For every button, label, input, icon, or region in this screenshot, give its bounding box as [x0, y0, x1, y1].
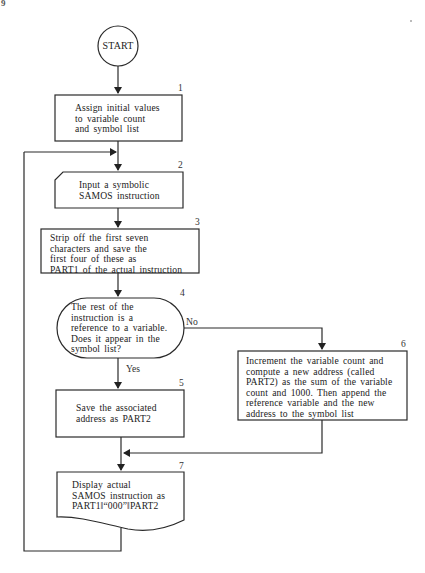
node-5-number: 5	[179, 378, 184, 388]
node-2-number: 2	[178, 160, 183, 170]
edge-4-to-6-no	[184, 328, 322, 349]
node-4-text: The rest of the instruction is a referen…	[71, 302, 167, 355]
flowchart-canvas: 9 START 1 2 3 4 5 6 7 Assign initial val…	[0, 0, 425, 573]
node-1-number: 1	[178, 83, 183, 93]
node-6-number: 6	[401, 339, 406, 349]
page-corner-mark: 9	[1, 0, 6, 8]
scan-speck	[410, 20, 412, 22]
node-7-number: 7	[179, 461, 184, 471]
node-6-text: Increment the variable count and compute…	[246, 356, 392, 420]
node-3-text: Strip off the first seven characters and…	[50, 233, 182, 275]
edge-label-no: No	[186, 316, 198, 327]
node-5-text: Save the associated address as PART2	[76, 403, 157, 424]
flowchart-shapes	[0, 0, 425, 573]
node-3-number: 3	[195, 217, 200, 227]
node-2-text: Input a symbolic SAMOS instruction	[79, 180, 160, 201]
node-4-number: 4	[180, 288, 185, 298]
edge-label-yes: Yes	[126, 363, 140, 374]
node-7-text: Display actual SAMOS instruction as PART…	[72, 480, 165, 512]
start-label: START	[98, 41, 138, 52]
node-1-text: Assign initial values to variable count …	[75, 103, 160, 135]
